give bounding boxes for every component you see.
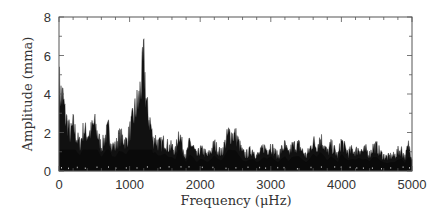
x-tick-label: 2000: [186, 177, 215, 192]
x-tick-label: 0: [55, 177, 62, 192]
y-tick-label: 2: [44, 126, 51, 141]
x-tick-labels: 010002000300040005000: [55, 177, 426, 192]
spectrum-area: [59, 39, 412, 171]
y-tick-label: 0: [44, 164, 51, 179]
x-tick-label: 1000: [115, 177, 144, 192]
x-tick-label: 3000: [256, 177, 285, 192]
x-tick-label: 5000: [398, 177, 427, 192]
x-tick-label: 4000: [327, 177, 356, 192]
y-tick-label: 6: [44, 49, 51, 64]
y-axis-title: Amplitude (mma): [20, 37, 35, 153]
amplitude-spectrum-chart: 010002000300040005000 02468 Frequency (μ…: [0, 0, 448, 214]
y-tick-labels: 02468: [44, 10, 51, 179]
y-tick-label: 4: [44, 87, 51, 102]
x-axis-title: Frequency (μHz): [180, 193, 291, 208]
y-tick-label: 8: [44, 10, 51, 25]
